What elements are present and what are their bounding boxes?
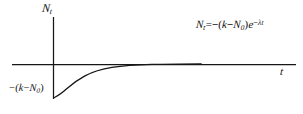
equation-annotation: Nt=−(k−N0)e−λt [196, 19, 264, 32]
y-intercept-label: −(k−N0) [9, 83, 45, 95]
decay-curve [55, 64, 202, 98]
y-axis-label: Nt [41, 2, 53, 16]
figure-container: Nt t −(k−N0) Nt=−(k−N0)e−λt [0, 0, 303, 114]
